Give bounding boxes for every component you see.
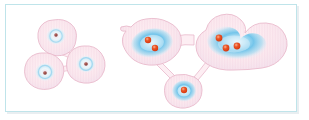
cell-L2-focus-dot [43,71,47,75]
cell-R2-focus-dot-2 [223,45,230,52]
pale-cell-cluster [25,20,105,90]
cell-R3 [165,74,203,108]
cell-L3 [67,46,106,83]
cell-R1-focus-dot-1 [145,37,151,43]
cell-R2 [196,14,287,70]
cell-L3-focus-dot [84,62,88,66]
cell-illustration-canvas [0,0,309,120]
active-cell-cluster [121,14,288,108]
cell-R2-focus-dot-3 [234,43,241,50]
cell-L1 [38,20,77,56]
figure-root: Cell cluster micrograph illustration [0,0,309,120]
cell-L1-focus-dot [54,33,57,36]
cell-R1-focus-dot-2 [152,45,158,51]
cell-R2-focus-dot-1 [216,35,223,42]
cell-R1 [121,18,182,65]
cell-R2-nucleus-inner [218,36,250,53]
cell-R3-focus-dot-1 [181,87,187,93]
cell-L2 [25,53,64,90]
